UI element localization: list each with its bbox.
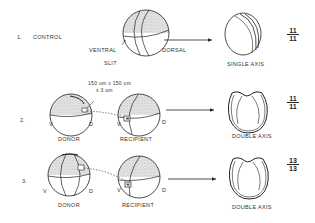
recipient-v-label-3: V [117, 187, 121, 193]
embryo-graft-diagram: 1. CONTROL VENTRAL DORSAL SLIT SINGLE AX… [0, 0, 315, 223]
fraction-denominator: 11 [286, 35, 300, 42]
double-axis-label-2: DOUBLE AXIS [232, 133, 272, 139]
ventral-label: VENTRAL [89, 47, 116, 53]
fraction-denominator: 11 [286, 103, 300, 110]
recipient-label-2: RECIPIENT [120, 136, 152, 142]
donor-v-label-2: V [49, 121, 53, 127]
donor-label-2: DONOR [58, 136, 80, 142]
graft-size-label: 150 um x 150 um [88, 80, 131, 86]
single-axis-label: SINGLE AXIS [227, 61, 264, 67]
recipient-d-label-2: D [162, 119, 166, 125]
slit-label: SLIT [104, 60, 117, 66]
result-fraction-2: 11 11 [286, 95, 300, 110]
row-number-1: 1. [17, 34, 22, 40]
graft-depth-label: x 3 um [96, 87, 113, 93]
donor-d-label-2: D [89, 121, 93, 127]
fraction-numerator: 11 [286, 95, 300, 102]
fraction-numerator: 11 [286, 27, 300, 34]
recipient-label-3: RECIPIENT [122, 202, 154, 208]
donor-label-3: DONOR [58, 202, 80, 208]
result-fraction-3: 13 13 [286, 157, 300, 172]
row-number-2: 2. [20, 117, 25, 123]
recipient-d-label-3: D [162, 187, 166, 193]
dorsal-label: DORSAL [162, 47, 186, 53]
donor-embryo-2 [50, 94, 94, 136]
donor-v-label-3: V [43, 188, 47, 194]
donor-d-label-3: D [89, 188, 93, 194]
donor-embryo-3 [48, 154, 90, 196]
double-axis-label-3: DOUBLE AXIS [232, 204, 272, 210]
row-number-3: 3. [22, 178, 27, 184]
double-axis-embryo-2 [228, 92, 267, 133]
recipient-embryo-3 [118, 156, 160, 198]
result-fraction-1: 11 11 [286, 27, 300, 42]
recipient-embryo-2 [118, 94, 160, 136]
fraction-denominator: 13 [286, 165, 300, 172]
fraction-numerator: 13 [286, 157, 300, 164]
recipient-v-label-2: V [117, 121, 121, 127]
control-label: CONTROL [33, 34, 62, 40]
single-axis-embryo [225, 13, 261, 55]
double-axis-embryo-3 [229, 158, 268, 199]
